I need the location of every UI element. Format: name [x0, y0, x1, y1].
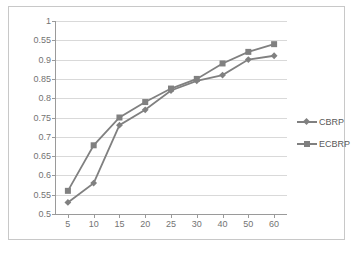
y-tick-mark — [52, 214, 55, 215]
x-tick-label: 10 — [89, 219, 99, 229]
x-tick-mark — [171, 214, 172, 218]
legend-item-cbrp[interactable]: CBRP — [297, 111, 343, 133]
y-tick-label: 0.55 — [9, 35, 51, 45]
series-line-ecbrp — [68, 44, 274, 191]
y-tick-label: 0.75 — [9, 113, 51, 123]
x-tick-label: 5 — [65, 219, 70, 229]
square-marker-icon — [297, 138, 317, 150]
square-marker-icon — [271, 41, 277, 47]
diamond-marker-icon — [271, 52, 278, 59]
chart-legend: CBRP ECBRP — [297, 111, 343, 155]
x-tick-mark — [223, 214, 224, 218]
y-tick-label: 0.5 — [9, 209, 51, 219]
x-tick-label: 60 — [269, 219, 279, 229]
square-marker-icon — [116, 115, 122, 121]
x-tick-mark — [197, 214, 198, 218]
legend-item-ecbrp[interactable]: ECBRP — [297, 133, 343, 155]
series-line-cbrp — [68, 56, 274, 203]
x-tick-mark — [248, 214, 249, 218]
series-plot — [55, 21, 287, 214]
x-tick-mark — [119, 214, 120, 218]
square-marker-icon — [220, 60, 226, 66]
x-tick-label: 20 — [140, 219, 150, 229]
square-marker-icon — [168, 86, 174, 92]
x-tick-mark — [145, 214, 146, 218]
x-tick-label: 50 — [243, 219, 253, 229]
y-tick-label: 0.7 — [9, 132, 51, 142]
y-tick-label: 0.6 — [9, 170, 51, 180]
square-marker-icon — [65, 188, 71, 194]
y-tick-label: 0.65 — [9, 151, 51, 161]
legend-label-ecbrp: ECBRP — [319, 139, 350, 149]
y-tick-label: 1 — [9, 16, 51, 26]
legend-label-cbrp: CBRP — [319, 117, 344, 127]
square-marker-icon — [91, 142, 97, 148]
square-marker-icon — [245, 49, 251, 55]
x-tick-label: 25 — [166, 219, 176, 229]
y-tick-label: 0.55 — [9, 190, 51, 200]
x-tick-label: 30 — [192, 219, 202, 229]
x-tick-label: 40 — [218, 219, 228, 229]
chart-frame: 0.50.550.60.650.70.750.80.850.90.551 510… — [8, 6, 345, 240]
x-tick-mark — [94, 214, 95, 218]
y-tick-label: 0.8 — [9, 93, 51, 103]
x-tick-mark — [274, 214, 275, 218]
y-tick-label: 0.9 — [9, 55, 51, 65]
x-tick-label: 15 — [114, 219, 124, 229]
diamond-marker-icon — [297, 116, 317, 128]
y-tick-label: 0.85 — [9, 74, 51, 84]
square-marker-icon — [142, 99, 148, 105]
x-tick-mark — [68, 214, 69, 218]
chart-plot-wrapper: 0.50.550.60.650.70.750.80.850.90.551 510… — [9, 7, 344, 239]
square-marker-icon — [194, 76, 200, 82]
